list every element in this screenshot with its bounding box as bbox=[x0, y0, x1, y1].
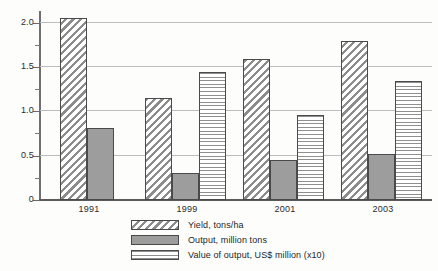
bar-group bbox=[341, 12, 422, 200]
bar-group bbox=[243, 12, 324, 200]
bar bbox=[297, 115, 324, 200]
bar bbox=[60, 18, 87, 200]
bar bbox=[172, 173, 199, 200]
bar bbox=[270, 160, 297, 200]
bar bbox=[145, 98, 172, 200]
legend-label-yield: Yield, tons/ha bbox=[188, 220, 244, 230]
y-tick-label: 0 bbox=[8, 194, 34, 204]
bar-group bbox=[145, 12, 226, 200]
y-tick-label: 1.0 bbox=[8, 105, 34, 115]
legend-label-value: Value of output, US$ million (x10) bbox=[188, 250, 325, 260]
legend-label-output: Output, million tons bbox=[188, 235, 267, 245]
x-tick-label: 1991 bbox=[40, 204, 138, 214]
y-tick-major bbox=[33, 23, 40, 24]
bar bbox=[87, 128, 114, 200]
bar bbox=[368, 154, 395, 200]
x-tick-label: 2003 bbox=[334, 204, 432, 214]
y-tick-major bbox=[33, 111, 40, 112]
legend-item: Yield, tons/ha bbox=[131, 218, 361, 231]
bar bbox=[243, 59, 270, 200]
legend-swatch-value-icon bbox=[131, 250, 179, 260]
legend-swatch-output-icon bbox=[131, 235, 179, 245]
y-tick-major bbox=[33, 156, 40, 157]
bar bbox=[341, 41, 368, 200]
x-tick-label: 1999 bbox=[138, 204, 236, 214]
chart-figure: 00.51.01.52.0 1991199920012003 Yield, to… bbox=[0, 0, 438, 271]
bar-group bbox=[60, 12, 114, 200]
legend-swatch-yield-icon bbox=[131, 220, 179, 230]
legend-item: Value of output, US$ million (x10) bbox=[131, 248, 361, 261]
x-tick-label: 2001 bbox=[236, 204, 334, 214]
bar bbox=[199, 72, 226, 200]
bar bbox=[395, 81, 422, 200]
y-tick-label: 1.5 bbox=[8, 61, 34, 71]
legend: Yield, tons/ha Output, million tons Valu… bbox=[131, 218, 361, 263]
legend-item: Output, million tons bbox=[131, 233, 361, 246]
y-tick-label: 0.5 bbox=[8, 150, 34, 160]
y-tick-major bbox=[33, 200, 40, 201]
y-tick-major bbox=[33, 67, 40, 68]
y-tick-label: 2.0 bbox=[8, 17, 34, 27]
plot-area bbox=[40, 12, 432, 200]
